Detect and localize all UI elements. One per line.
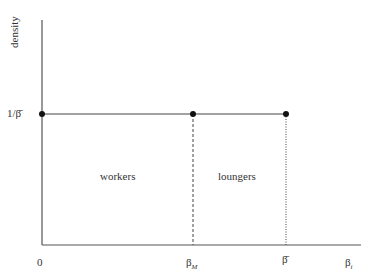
point-beta-m (190, 111, 196, 117)
point-beta-bar (283, 111, 289, 117)
region-label-loungers: loungers (218, 170, 256, 182)
x-tick-beta-m: βM (186, 256, 197, 271)
beta-m-subscript: M (192, 263, 198, 271)
x-axis-label: βi (345, 256, 353, 271)
diagram-canvas (0, 0, 378, 279)
x-tick-beta-bar: β̄ (282, 253, 288, 265)
y-axis-label: density (8, 16, 20, 48)
beta-i-subscript: i (351, 263, 353, 271)
x-tick-origin: 0 (37, 256, 43, 268)
point-origin (39, 111, 45, 117)
y-tick-label: 1/β̄ (7, 107, 21, 119)
region-label-workers: workers (100, 170, 135, 182)
